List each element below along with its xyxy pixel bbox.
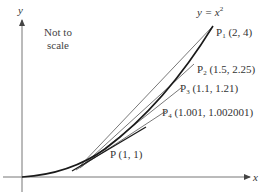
curve-label: y = x2 bbox=[197, 6, 223, 18]
p4-coords: (1.001, 1.002001) bbox=[174, 106, 253, 118]
curve-label-exp: 2 bbox=[220, 5, 224, 13]
note-line-2: scale bbox=[40, 39, 76, 52]
curve-label-lhs: y = x bbox=[197, 6, 220, 18]
note-line-1: Not to bbox=[40, 26, 76, 39]
p2-sub: 2 bbox=[203, 69, 207, 77]
point-p-label: P (1, 1) bbox=[110, 149, 142, 160]
secant-p1 bbox=[80, 26, 213, 166]
not-to-scale-note: Not to scale bbox=[40, 26, 76, 52]
p3-sub: 3 bbox=[186, 88, 190, 96]
point-p3-label: P3 (1.1, 1.21) bbox=[180, 83, 238, 96]
p3-coords: (1.1, 1.21) bbox=[192, 82, 238, 94]
p1-coords: (2, 4) bbox=[228, 26, 252, 38]
point-p1-label: P1 (2, 4) bbox=[216, 27, 252, 40]
x-axis-label: x bbox=[253, 172, 258, 183]
p-name: P bbox=[110, 148, 116, 160]
point-p2-label: P2 (1.5, 2.25) bbox=[197, 64, 255, 77]
p2-coords: (1.5, 2.25) bbox=[209, 63, 255, 75]
point-p4-label: P4 (1.001, 1.002001) bbox=[162, 107, 253, 120]
y-axis-label: y bbox=[18, 5, 23, 16]
p-coords: (1, 1) bbox=[118, 148, 142, 160]
p4-sub: 4 bbox=[168, 112, 172, 120]
p1-sub: 1 bbox=[222, 32, 226, 40]
